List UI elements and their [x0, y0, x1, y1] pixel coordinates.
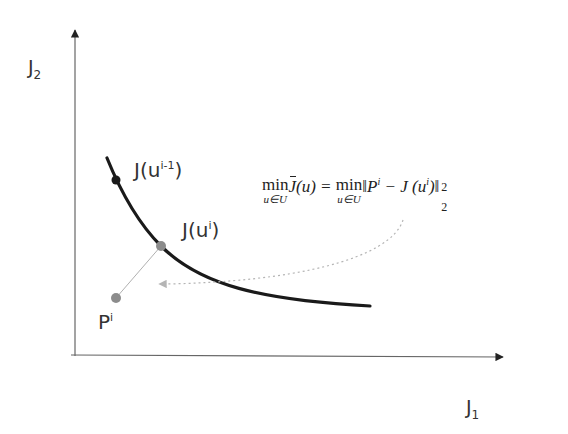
label-j-u-prev: J(ui-1): [134, 160, 182, 180]
y-axis-label: J2: [28, 58, 41, 81]
point-p-reference: [111, 293, 121, 303]
objective-formula: min u∈U J(u) = min u∈U ‖Pi − J (ui)‖22: [262, 176, 451, 205]
diagram-canvas: [0, 0, 568, 434]
label-p-reference: Pi: [98, 312, 113, 332]
lhs-min-operator: min u∈U: [262, 176, 288, 205]
x-axis-label: J1: [466, 398, 479, 421]
label-j-u-current: J(ui): [182, 220, 219, 240]
projection-line: [116, 246, 161, 298]
point-j-u-prev: [112, 176, 121, 185]
rhs-min-operator: min u∈U: [336, 176, 362, 205]
x-axis: [71, 355, 503, 357]
point-j-u-current: [156, 241, 166, 251]
